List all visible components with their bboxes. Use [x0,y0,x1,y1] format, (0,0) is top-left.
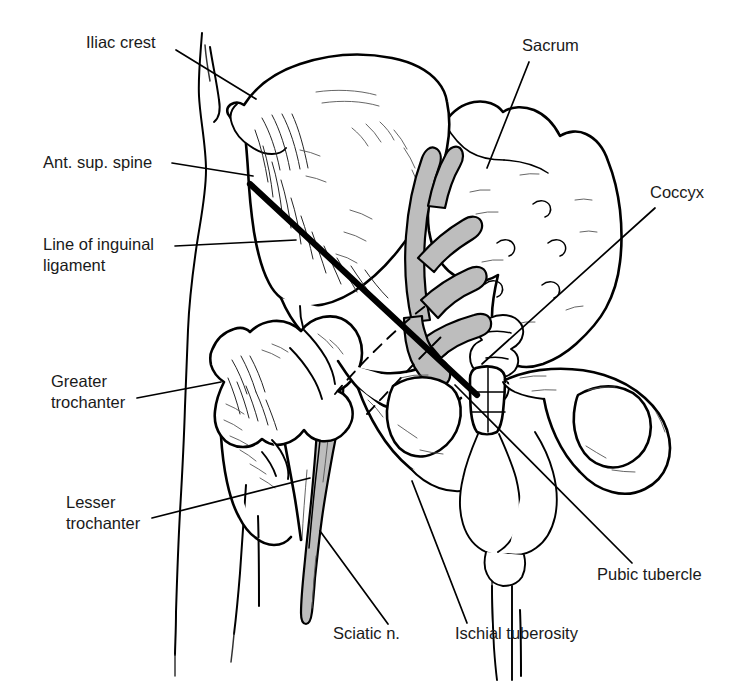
label-line-of-inguinal-ligament: Line of inguinal ligament [43,235,186,274]
leader-ischial-tuberosity [412,481,467,623]
label-lesser-trochanter: Lesser trochanter [66,493,163,532]
femur-group [210,316,362,545]
label-iliac-crest: Iliac crest [86,33,156,51]
label-coccyx: Coccyx [650,183,705,201]
label-ant-sup-spine: Ant. sup. spine [43,153,152,171]
pelvis-diagram-svg: Iliac crest Ant. sup. spine Line of ingu… [0,0,743,700]
leader-iliac-crest [176,50,256,99]
leader-sciatic-nerve [320,531,388,624]
leader-ant-sup-spine [172,163,253,176]
leader-greater-trochanter [137,382,221,398]
label-sacrum: Sacrum [522,36,579,54]
label-sciatic-nerve: Sciatic n. [333,624,400,642]
label-greater-trochanter: Greater trochanter [51,372,148,411]
label-pubic-tubercle: Pubic tubercle [597,565,702,583]
label-ischial-tuberosity: Ischial tuberosity [455,624,579,642]
anatomy-figure: Iliac crest Ant. sup. spine Line of ingu… [0,0,743,700]
